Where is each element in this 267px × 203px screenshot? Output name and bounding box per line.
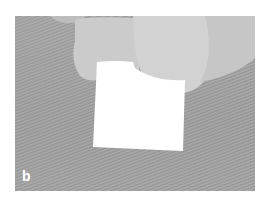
photograph: b <box>15 16 255 191</box>
photo-scene <box>15 16 255 191</box>
panel-label: b <box>22 169 31 183</box>
